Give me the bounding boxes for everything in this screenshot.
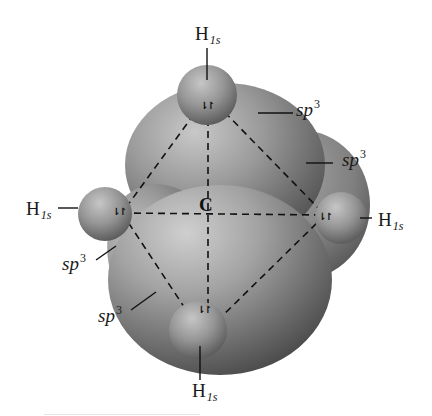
sp-exponent: 3 [314, 97, 320, 111]
methane-sp3-diagram: ⇂↾ ⇂↾ ⇂↾ ⇂↾ C H1s H1s H1s H1s sp3 sp3 sp… [0, 0, 432, 416]
carbon-label: C [199, 194, 213, 216]
sp-base: sp [296, 99, 313, 120]
electron-pair-left: ⇂↾ [112, 206, 125, 217]
divider-line [44, 414, 200, 415]
sp3-label-lower-left: sp3 [98, 306, 122, 325]
sp3-label-upper-right: sp3 [296, 100, 320, 119]
h-orbital: 1s [207, 390, 218, 404]
electron-pair-bottom: ⇂↾ [197, 304, 210, 315]
h1s-label-top: H1s [195, 24, 220, 43]
sp-base: sp [98, 305, 115, 326]
sp-base: sp [62, 253, 79, 274]
sp3-label-right: sp3 [342, 150, 366, 169]
h1s-label-bottom: H1s [192, 381, 217, 400]
sp3-label-left: sp3 [62, 254, 86, 273]
electron-pair-right: ⇂↾ [318, 211, 331, 222]
h-orbital: 1s [41, 208, 52, 222]
sp-exponent: 3 [116, 303, 122, 317]
orbital-illustration [0, 0, 432, 416]
h-orbital: 1s [210, 33, 221, 47]
h-element: H [192, 380, 206, 401]
h-orbital: 1s [393, 219, 404, 233]
sp-base: sp [342, 149, 359, 170]
h1s-label-right: H1s [378, 210, 403, 229]
sp-exponent: 3 [80, 251, 86, 265]
h-element: H [195, 23, 209, 44]
h-element: H [26, 198, 40, 219]
h1s-label-left: H1s [26, 199, 51, 218]
h-element: H [378, 209, 392, 230]
sp-exponent: 3 [360, 147, 366, 161]
electron-pair-top: ⇂↾ [200, 100, 213, 111]
